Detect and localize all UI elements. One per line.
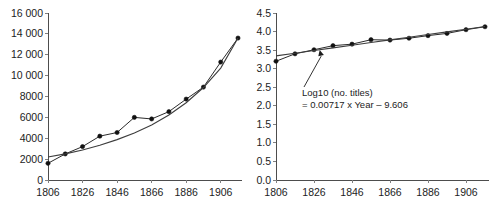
data-line-path xyxy=(276,27,485,62)
right-chart-canvas: 0.00.51.01.52.02.53.03.54.04.51806182618… xyxy=(245,0,490,212)
y-tick-label: 0.0 xyxy=(256,174,271,186)
data-line-path xyxy=(48,38,238,163)
data-point-marker xyxy=(150,117,154,121)
chart-panel-right: 0.00.51.01.52.02.53.03.54.04.51806182618… xyxy=(245,0,490,212)
x-tick-label: 1886 xyxy=(416,186,440,198)
y-tick-label: 3.0 xyxy=(256,62,271,74)
data-point-marker xyxy=(184,97,188,101)
y-tick-label: 2.5 xyxy=(256,81,271,93)
y-tick-label: 2.0 xyxy=(256,99,271,111)
annotation-arrow-icon xyxy=(318,50,324,56)
x-tick-label: 1866 xyxy=(378,186,402,198)
data-point-marker xyxy=(369,38,373,42)
x-tick-label: 1806 xyxy=(36,186,60,198)
y-tick-label: 3.5 xyxy=(256,44,271,56)
x-tick-label: 1846 xyxy=(340,186,364,198)
data-point-marker xyxy=(80,145,84,149)
x-tick-label: 1866 xyxy=(140,186,164,198)
y-tick-label: 8000 xyxy=(20,90,44,102)
left-chart-canvas: 0200040006000800010 00012 00014 00016 00… xyxy=(0,0,245,212)
x-tick-label: 1826 xyxy=(302,186,326,198)
data-point-marker xyxy=(274,59,278,63)
y-tick-label: 14 000 xyxy=(11,27,43,39)
y-tick-label: 10 000 xyxy=(11,69,43,81)
annotation-line-2: = 0.00717 x Year – 9.606 xyxy=(302,99,408,110)
x-tick-label: 1906 xyxy=(209,186,233,198)
x-tick-label: 1906 xyxy=(454,186,478,198)
data-point-marker xyxy=(98,134,102,138)
x-tick-label: 1826 xyxy=(71,186,95,198)
figure-two-panel-chart: 0200040006000800010 00012 00014 00016 00… xyxy=(0,0,490,212)
x-tick-label: 1806 xyxy=(264,186,288,198)
fit-line-path xyxy=(276,27,485,56)
annotation-leader-line xyxy=(304,56,321,87)
data-point-marker xyxy=(219,60,223,64)
y-tick-label: 12 000 xyxy=(11,48,43,60)
annotation-line-1: Log10 (no. titles) xyxy=(302,87,373,98)
fit-line-path xyxy=(48,38,238,157)
y-tick-label: 0 xyxy=(37,174,43,186)
data-point-marker xyxy=(115,130,119,134)
y-tick-label: 0.5 xyxy=(256,155,271,167)
x-tick-label: 1846 xyxy=(105,186,129,198)
y-tick-label: 4.0 xyxy=(256,25,271,37)
y-tick-label: 16 000 xyxy=(11,7,43,19)
y-tick-label: 6000 xyxy=(20,111,44,123)
x-tick-label: 1886 xyxy=(175,186,199,198)
data-point-marker xyxy=(167,110,171,114)
data-point-marker xyxy=(132,115,136,119)
y-tick-label: 1.0 xyxy=(256,136,271,148)
y-tick-label: 4000 xyxy=(20,132,44,144)
chart-panel-left: 0200040006000800010 00012 00014 00016 00… xyxy=(0,0,245,212)
y-tick-label: 4.5 xyxy=(256,7,271,19)
y-tick-label: 1.5 xyxy=(256,118,271,130)
data-point-marker xyxy=(46,161,50,165)
y-tick-label: 2000 xyxy=(20,153,44,165)
